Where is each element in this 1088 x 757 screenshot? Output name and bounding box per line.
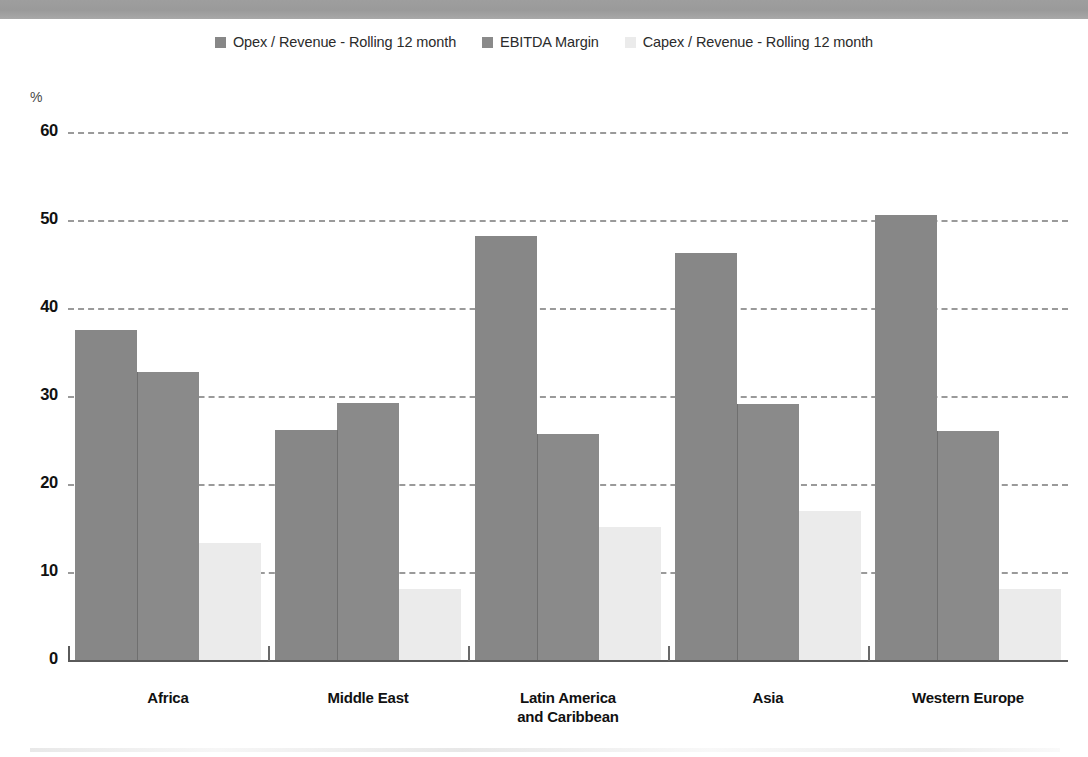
- bar: [537, 434, 599, 660]
- y-axis-tick-label: 30: [18, 385, 58, 404]
- x-axis-line: [68, 660, 1068, 662]
- x-axis-category-label: Middle East: [268, 688, 468, 707]
- y-axis-unit-label: %: [30, 89, 42, 105]
- x-axis-category-label: Western Europe: [868, 688, 1068, 707]
- bar: [399, 589, 461, 660]
- bar-divider: [937, 431, 938, 660]
- x-axis-category-label: Latin Americaand Caribbean: [468, 688, 668, 726]
- x-axis-tick: [268, 646, 270, 661]
- y-axis-tick-label: 10: [18, 561, 58, 580]
- x-axis-category-label-line: Western Europe: [868, 688, 1068, 707]
- bar-divider: [537, 434, 538, 660]
- bar: [599, 527, 661, 660]
- bar: [675, 253, 737, 660]
- bar: [937, 431, 999, 660]
- bar-chart: % 0102030405060 AfricaMiddle EastLatin A…: [0, 0, 1088, 757]
- x-axis-category-label-line: and Caribbean: [468, 707, 668, 726]
- scan-artifact-line: [30, 748, 1060, 752]
- x-axis-tick: [468, 646, 470, 661]
- bar: [337, 403, 399, 660]
- y-axis-tick-label: 20: [18, 473, 58, 492]
- x-axis-category-label-line: Latin America: [468, 688, 668, 707]
- x-axis-category-label: Asia: [668, 688, 868, 707]
- bar: [75, 330, 137, 660]
- x-axis-category-label-line: Middle East: [268, 688, 468, 707]
- gridline: [68, 132, 1068, 134]
- bar: [737, 404, 799, 660]
- y-axis-tick-label: 60: [18, 121, 58, 140]
- y-axis-tick-label: 50: [18, 209, 58, 228]
- x-axis-category-label-line: Asia: [668, 688, 868, 707]
- y-axis-tick-label: 0: [18, 649, 58, 668]
- x-axis-category-label: Africa: [68, 688, 268, 707]
- bar: [999, 589, 1061, 660]
- bar: [875, 215, 937, 660]
- bar-divider: [137, 372, 138, 660]
- x-axis-tick: [868, 646, 870, 661]
- bar: [275, 430, 337, 660]
- bar: [475, 236, 537, 660]
- bar-divider: [737, 404, 738, 660]
- bar-divider: [337, 430, 338, 660]
- y-axis-tick-label: 40: [18, 297, 58, 316]
- bar: [137, 372, 199, 660]
- x-axis-category-label-line: Africa: [68, 688, 268, 707]
- x-axis-tick: [668, 646, 670, 661]
- bar: [799, 511, 861, 660]
- bar: [199, 543, 261, 660]
